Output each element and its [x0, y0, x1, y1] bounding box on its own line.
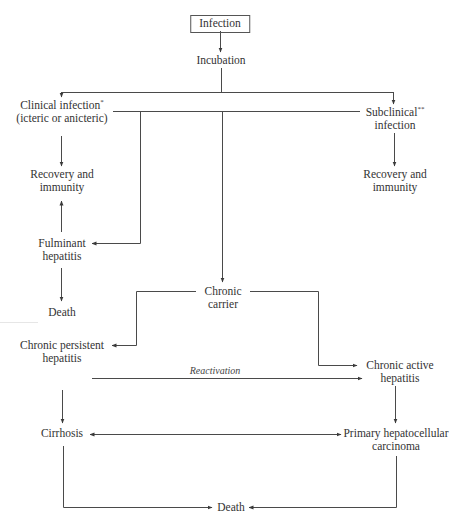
node-cirrhosis-label: Cirrhosis [41, 427, 83, 440]
node-recovery-left-line2: immunity [30, 181, 94, 194]
node-chronic-active-line2: hepatitis [366, 372, 433, 385]
node-death-left: Death [48, 306, 75, 319]
node-recovery-right-line1: Recovery and [363, 168, 427, 181]
node-recovery-left: Recovery and immunity [30, 168, 94, 194]
node-chronic-active-line1: Chronic active [366, 359, 433, 372]
node-fulminant-line2: hepatitis [38, 250, 85, 263]
node-recovery-right-line2: immunity [363, 181, 427, 194]
node-death-bottom: Death [217, 501, 244, 514]
node-cirrhosis: Cirrhosis [41, 427, 83, 440]
node-clinical-line1: Clinical infection* [16, 99, 107, 112]
node-chronic-persistent-line1: Chronic persistent [20, 339, 104, 352]
node-infection: Infection [190, 15, 250, 33]
node-recovery-left-line1: Recovery and [30, 168, 94, 181]
node-chronic-carrier-line1: Chronic [204, 285, 241, 298]
node-death-left-label: Death [48, 306, 75, 319]
node-chronic-active-hepatitis: Chronic active hepatitis [366, 359, 433, 385]
footnote-marker: * [100, 98, 104, 106]
node-chronic-carrier: Chronic carrier [204, 285, 241, 311]
node-recovery-right: Recovery and immunity [363, 168, 427, 194]
node-fulminant-line1: Fulminant [38, 237, 85, 250]
edge-to-fulminant [92, 111, 141, 244]
node-subclinical-line1: Subclinical** [366, 106, 425, 119]
node-incubation-label: Incubation [196, 54, 245, 67]
node-primary-hcc-line1: Primary hepatocellular [343, 427, 448, 440]
node-fulminant-hepatitis: Fulminant hepatitis [38, 237, 85, 263]
node-chronic-persistent-line2: hepatitis [20, 352, 104, 365]
node-death-bottom-label: Death [217, 501, 244, 514]
reactivation-label: Reactivation [190, 364, 241, 377]
edge-cirrhosis-death [64, 446, 213, 508]
node-chronic-carrier-line2: carrier [204, 298, 241, 311]
node-primary-hepatocellular-carcinoma: Primary hepatocellular carcinoma [343, 427, 448, 453]
node-infection-label: Infection [199, 17, 241, 30]
node-subclinical-infection: Subclinical** infection [366, 106, 425, 132]
node-clinical-infection: Clinical infection* (icteric or anicteri… [16, 99, 107, 125]
edge-carrier-active [250, 292, 357, 366]
edge-label-reactivation: Reactivation [190, 364, 241, 377]
node-chronic-persistent-hepatitis: Chronic persistent hepatitis [20, 339, 104, 365]
node-subclinical-line2: infection [366, 119, 425, 132]
node-incubation: Incubation [196, 54, 245, 67]
edge-carrier-persistent [112, 292, 196, 346]
footnote-marker: ** [417, 105, 424, 113]
node-clinical-line2: (icteric or anicteric) [16, 112, 107, 125]
node-primary-hcc-line2: carcinoma [343, 440, 448, 453]
scan-artifact-line [0, 322, 38, 323]
edge-hcc-death [249, 456, 397, 508]
